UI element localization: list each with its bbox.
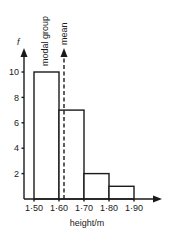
mean-label: mean	[59, 22, 69, 45]
x-tick-label: 1·90	[125, 203, 143, 213]
x-axis-label: height/m	[70, 218, 105, 228]
x-axis-arrow-icon	[153, 196, 162, 203]
y-tick-label: 2	[14, 169, 19, 179]
y-tick-label: 10	[9, 67, 19, 77]
y-tick-label: 6	[14, 118, 19, 128]
x-tick-label: 1·80	[100, 203, 118, 213]
y-tick-label: 8	[14, 93, 19, 103]
x-tick-label: 1·60	[50, 203, 68, 213]
y-axis-arrow-icon	[21, 48, 28, 57]
modal-group-label: modal group	[40, 16, 50, 66]
histogram-bar	[109, 186, 134, 199]
histogram-chart: 2468101·501·601·701·801·90 modal groupme…	[0, 0, 169, 242]
histogram-bar	[34, 72, 59, 199]
x-tick-label: 1·50	[25, 203, 43, 213]
histogram-bar	[59, 110, 84, 199]
y-tick-label: 4	[14, 143, 19, 153]
mean-arrow-icon	[61, 48, 68, 57]
y-axis-label: f	[17, 37, 21, 47]
histogram-bars	[34, 72, 134, 199]
x-tick-label: 1·70	[75, 203, 93, 213]
histogram-bar	[84, 174, 109, 199]
